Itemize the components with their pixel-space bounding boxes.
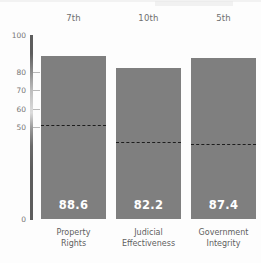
- header-smudge-artifact: [155, 1, 233, 6]
- category-label-line: Property: [37, 228, 110, 239]
- bar-value-label: 82.2: [116, 198, 181, 212]
- y-axis-tick-50: 50: [0, 122, 36, 133]
- y-axis-tick-label: 100: [12, 30, 26, 41]
- y-axis-tick-label: 70: [16, 85, 26, 96]
- reference-line-government-integrity: [191, 144, 256, 145]
- bar-value-label: 87.4: [191, 198, 256, 212]
- reference-line-judicial-effectiveness: [116, 142, 181, 143]
- rank-label-property-rights: 7th: [36, 10, 111, 26]
- category-label-judicial-effectiveness: Judicial Effectiveness: [111, 228, 186, 258]
- category-label-row: Property Rights Judicial Effectiveness G…: [36, 228, 261, 258]
- category-label-line: Integrity: [187, 239, 260, 250]
- category-label-line: Government: [187, 228, 260, 239]
- y-axis-tick-label: 0: [21, 214, 26, 225]
- bar-judicial-effectiveness: 82.2: [116, 68, 181, 219]
- y-axis-tick-label: 80: [16, 67, 26, 78]
- y-axis-tick-80: 80: [0, 67, 36, 78]
- category-label-line: Effectiveness: [112, 239, 185, 250]
- bar-group-property-rights: 88.6: [41, 35, 106, 219]
- bar-group-judicial-effectiveness: 82.2: [116, 35, 181, 219]
- bar-property-rights: 88.6: [41, 56, 106, 219]
- rank-label-government-integrity: 5th: [186, 10, 261, 26]
- y-axis-tick-100: 100: [0, 30, 36, 41]
- bar-group-government-integrity: 87.4: [191, 35, 256, 219]
- category-label-government-integrity: Government Integrity: [186, 228, 261, 258]
- bar-government-integrity: 87.4: [191, 58, 256, 219]
- rank-label-judicial-effectiveness: 10th: [111, 10, 186, 26]
- category-label-line: Judicial: [112, 228, 185, 239]
- plot-area: 88.682.287.4: [36, 35, 261, 219]
- bar-chart: 7th 10th 5th 100807060500 88.682.287.4 P…: [0, 0, 261, 263]
- y-axis-tick-label: 60: [16, 104, 26, 115]
- y-axis-tick-0: 0: [0, 214, 36, 225]
- y-axis-tick-label: 50: [16, 122, 26, 133]
- reference-line-property-rights: [41, 125, 106, 126]
- y-axis-tick-70: 70: [0, 85, 36, 96]
- category-label-line: Rights: [37, 239, 110, 250]
- rank-label-row: 7th 10th 5th: [36, 10, 261, 26]
- category-label-property-rights: Property Rights: [36, 228, 111, 258]
- bar-value-label: 88.6: [41, 198, 106, 212]
- y-axis-tick-60: 60: [0, 104, 36, 115]
